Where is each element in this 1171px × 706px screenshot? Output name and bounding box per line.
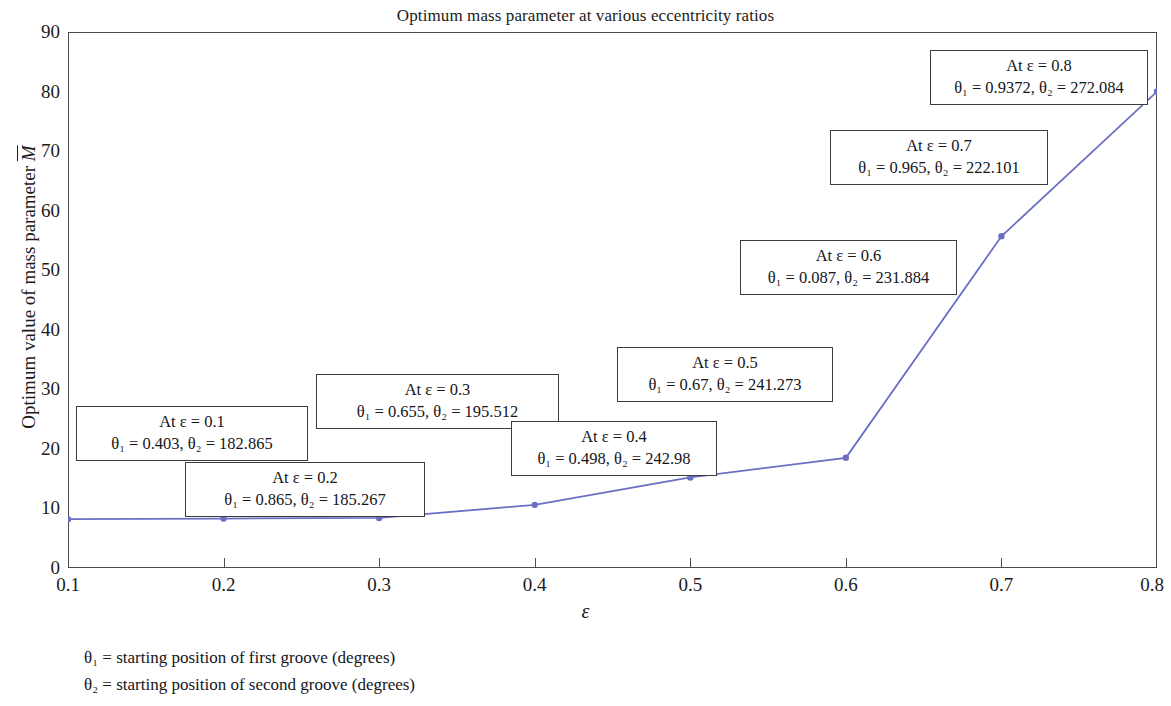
x-tick-0.5: 0.5 [660, 574, 720, 596]
annotation-box-eps-0.7: At ε = 0.7 θ₁ = 0.965, θ₂ = 222.101 [830, 130, 1048, 185]
x-tick-0.6: 0.6 [816, 574, 876, 596]
annotation-line2: θ₁ = 0.655, θ₂ = 195.512 [327, 401, 548, 423]
x-tick-0.4: 0.4 [505, 574, 565, 596]
x-tick-0.2: 0.2 [194, 574, 254, 596]
x-tick-0.7: 0.7 [971, 574, 1031, 596]
chart-title: Optimum mass parameter at various eccent… [0, 6, 1171, 26]
annotation-line2: θ₁ = 0.087, θ₂ = 231.884 [751, 267, 946, 289]
annotation-line1: At ε = 0.1 [87, 411, 297, 433]
x-axis-label: ε [0, 600, 1171, 623]
annotation-box-eps-0.1: At ε = 0.1 θ₁ = 0.403, θ₂ = 182.865 [76, 406, 308, 461]
annotation-box-eps-0.5: At ε = 0.5 θ₁ = 0.67, θ₂ = 241.273 [617, 347, 833, 402]
x-tick-mark-0.5 [690, 558, 691, 568]
annotation-line2: θ₁ = 0.498, θ₂ = 242.98 [522, 448, 706, 470]
annotation-box-eps-0.2: At ε = 0.2 θ₁ = 0.865, θ₂ = 185.267 [185, 462, 425, 517]
annotation-line2: θ₁ = 0.865, θ₂ = 185.267 [196, 489, 414, 511]
x-tick-0.1: 0.1 [38, 574, 98, 596]
data-point-0.4 [532, 502, 538, 508]
data-point-0.1 [68, 516, 71, 522]
annotation-line2: θ₁ = 0.67, θ₂ = 241.273 [628, 374, 822, 396]
annotation-line1: At ε = 0.4 [522, 426, 706, 448]
annotation-box-eps-0.8: At ε = 0.8 θ₁ = 0.9372, θ₂ = 272.084 [930, 50, 1148, 105]
data-point-0.6 [843, 455, 849, 461]
x-tick-mark-0.7 [1001, 558, 1002, 568]
annotation-line1: At ε = 0.3 [327, 379, 548, 401]
annotation-line1: At ε = 0.6 [751, 245, 946, 267]
x-tick-mark-0.2 [224, 558, 225, 568]
data-point-0.7 [998, 233, 1004, 239]
y-axis-label: Optimum value of mass parameter M [18, 27, 40, 547]
annotation-line2: θ₁ = 0.403, θ₂ = 182.865 [87, 433, 297, 455]
x-tick-mark-0.3 [379, 558, 380, 568]
annotation-line2: θ₁ = 0.9372, θ₂ = 272.084 [941, 77, 1137, 99]
x-tick-mark-0.1 [68, 558, 69, 568]
footnote-theta1: θ₁ = starting position of first groove (… [84, 645, 415, 672]
footnote-legend: θ₁ = starting position of first groove (… [84, 645, 415, 699]
x-tick-mark-0.4 [535, 558, 536, 568]
annotation-box-eps-0.4: At ε = 0.4 θ₁ = 0.498, θ₂ = 242.98 [511, 421, 717, 476]
annotation-line2: θ₁ = 0.965, θ₂ = 222.101 [841, 157, 1037, 179]
x-tick-mark-0.6 [846, 558, 847, 568]
annotation-line1: At ε = 0.7 [841, 135, 1037, 157]
x-tick-mark-0.8 [1156, 558, 1157, 568]
footnote-theta2: θ₂ = starting position of second groove … [84, 672, 415, 699]
x-tick-0.8: 0.8 [1122, 574, 1171, 596]
chart-figure: Optimum mass parameter at various eccent… [0, 0, 1171, 706]
annotation-box-eps-0.6: At ε = 0.6 θ₁ = 0.087, θ₂ = 231.884 [740, 240, 957, 295]
annotation-line1: At ε = 0.2 [196, 467, 414, 489]
x-tick-0.3: 0.3 [349, 574, 409, 596]
annotation-line1: At ε = 0.5 [628, 352, 822, 374]
annotation-line1: At ε = 0.8 [941, 55, 1137, 77]
